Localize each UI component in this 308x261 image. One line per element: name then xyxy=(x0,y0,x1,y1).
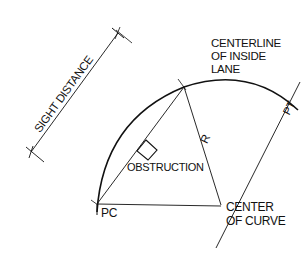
radius-line xyxy=(184,87,221,205)
sight-distance-diagram: SIGHT DISTANCE CENTERLINE OF INSIDE LANE… xyxy=(0,0,308,261)
centerline-label-line3: LANE xyxy=(211,63,240,75)
obstruction-label: OBSTRUCTION xyxy=(127,161,204,173)
centerline-label-line2: OF INSIDE xyxy=(211,50,266,62)
sight-distance-extension-top xyxy=(116,30,132,43)
pc-label: PC xyxy=(101,207,117,219)
center-of-curve-label-line2: OF CURVE xyxy=(226,215,285,227)
centerline-label-line1: CENTERLINE xyxy=(211,37,281,49)
obstruction-box xyxy=(137,140,157,160)
sight-distance-tick-bottom xyxy=(26,147,44,162)
center-of-curve-label-line1: CENTER xyxy=(226,201,274,213)
sight-distance-dimension-line xyxy=(31,33,118,152)
sight-line xyxy=(97,87,184,204)
sight-distance-tick-top xyxy=(112,28,124,38)
